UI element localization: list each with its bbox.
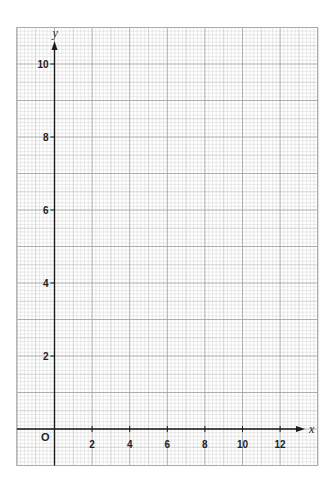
x-tick-label: 10: [237, 439, 249, 450]
y-tick-label: 6: [43, 205, 49, 216]
x-tick-label: 6: [165, 439, 171, 450]
x-tick-label: 2: [89, 439, 95, 450]
y-axis-label: y: [52, 26, 59, 40]
y-tick-label: 8: [43, 132, 49, 143]
graph-paper: 24681012246810 x y O: [0, 0, 336, 487]
x-tick-label: 12: [275, 439, 287, 450]
y-tick-label: 4: [43, 278, 49, 289]
x-tick-label: 8: [202, 439, 208, 450]
x-axis-label: x: [308, 422, 315, 436]
background: [0, 0, 336, 487]
origin-label: O: [41, 431, 50, 443]
y-tick-label: 10: [37, 59, 49, 70]
x-tick-label: 4: [127, 439, 133, 450]
y-tick-label: 2: [43, 351, 49, 362]
